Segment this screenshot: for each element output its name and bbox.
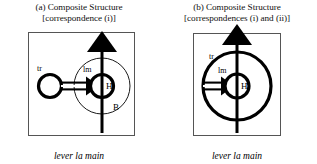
- panel-b-title-line1: (b) Composite Structure: [158, 2, 316, 13]
- panel-a-title-line2: [correspondence (i)]: [0, 13, 158, 24]
- panel-a: (a) Composite Structure [correspondence …: [0, 0, 158, 164]
- panel-b-title-line2: [correspondences (i) and (ii)]: [158, 13, 316, 24]
- panel-a-title-line1: (a) Composite Structure: [0, 2, 158, 13]
- panel-b-diagram-box: [193, 33, 281, 136]
- panel-a-caption: lever la main: [0, 151, 158, 161]
- panel-a-diagram-box: [28, 32, 135, 136]
- panel-b: (b) Composite Structure [correspondences…: [158, 0, 316, 164]
- panel-b-caption: lever la main: [158, 151, 316, 161]
- composite-structure-figure: (a) Composite Structure [correspondence …: [0, 0, 317, 164]
